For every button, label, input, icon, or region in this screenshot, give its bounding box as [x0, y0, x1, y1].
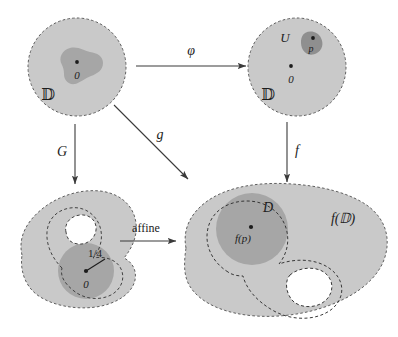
commutative-diagram: 0 𝔻 U p 0 𝔻 1/4 0 — [0, 0, 398, 337]
svg-text:𝔻: 𝔻 — [41, 86, 55, 103]
region-label-image: f(𝔻) — [331, 211, 356, 227]
arrow-g-label: g — [157, 127, 164, 142]
svg-text:f(𝔻): f(𝔻) — [331, 211, 356, 227]
point-dot-p — [311, 36, 315, 40]
br-outer-region — [185, 183, 388, 316]
arrow-G: G — [57, 124, 75, 184]
arrow-affine-label: affine — [132, 221, 160, 235]
bl-origin-label: 0 — [83, 278, 89, 290]
arrow-phi-label: φ — [187, 43, 195, 58]
br-hole — [287, 268, 332, 306]
arrow-f: f — [287, 122, 301, 182]
point-label-p: p — [308, 43, 314, 54]
svg-text:𝔻: 𝔻 — [261, 86, 275, 103]
disk-label-D: D — [262, 200, 273, 215]
panel-bottom-left: 1/4 0 — [21, 191, 136, 308]
br-point-dot — [249, 225, 253, 229]
origin-dot-target — [289, 64, 293, 68]
origin-label-target: 0 — [288, 73, 294, 85]
arrow-g-line — [114, 105, 188, 179]
panel-top-left: 0 𝔻 — [28, 18, 126, 116]
region-label-source-disk: 𝔻 — [41, 86, 55, 103]
neighborhood-label-U: U — [280, 30, 291, 45]
br-dark-disk-group — [216, 193, 288, 265]
arrow-f-label: f — [295, 143, 301, 158]
panel-bottom-right: D f(p) f(𝔻) — [185, 183, 388, 318]
bl-origin-dot — [84, 269, 88, 273]
bl-hole — [66, 215, 96, 244]
radius-label: 1/4 — [88, 247, 103, 259]
point-label-fp: f(p) — [235, 232, 251, 245]
arrow-g: g — [114, 105, 188, 179]
region-label-target-disk: 𝔻 — [261, 86, 275, 103]
origin-label-source: 0 — [74, 69, 80, 81]
origin-dot-source — [75, 60, 79, 64]
diagram-canvas: 0 𝔻 U p 0 𝔻 1/4 0 — [0, 0, 398, 337]
arrow-phi: φ — [136, 43, 246, 66]
br-dark-disk — [216, 193, 288, 265]
panel-top-right: U p 0 𝔻 — [248, 18, 346, 116]
arrow-G-label: G — [57, 144, 67, 159]
